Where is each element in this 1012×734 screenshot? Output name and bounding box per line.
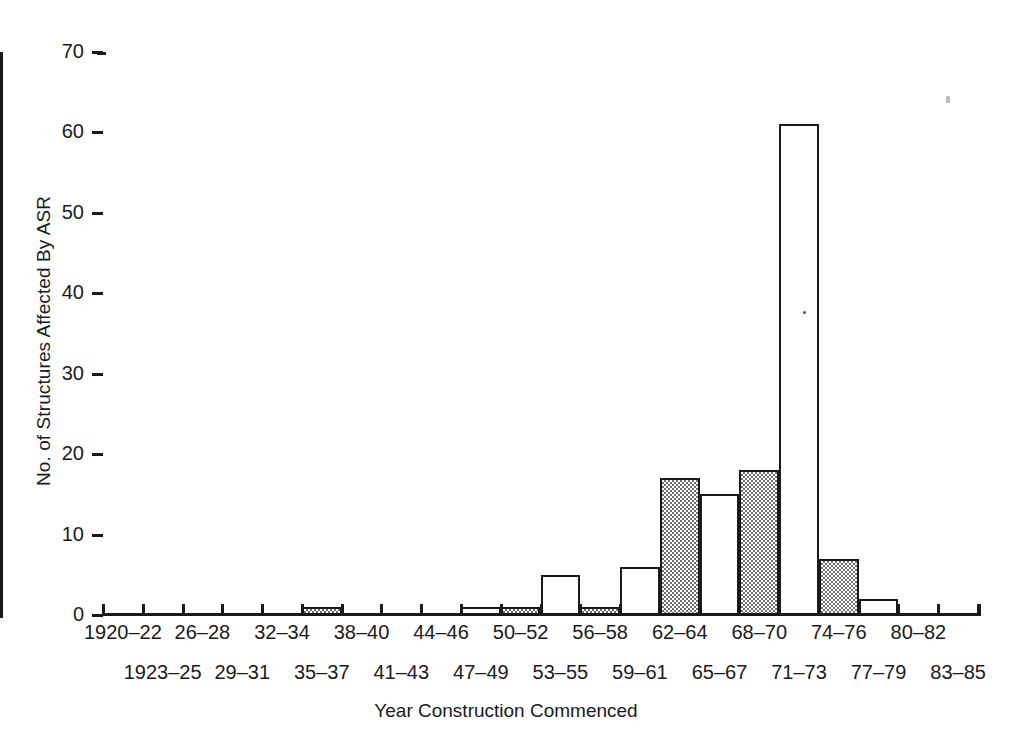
y-tick-40: [92, 292, 103, 295]
y-tick-label-50: 50: [22, 202, 84, 222]
bar-50-52: [501, 607, 541, 615]
chart-figure: No. of Structures Affected By ASR 010203…: [0, 0, 1012, 734]
y-tick-50: [92, 212, 103, 215]
bar-47-49: [461, 607, 501, 615]
y-tick-20: [92, 453, 103, 456]
y-tick-label-40: 40: [22, 282, 84, 302]
bar-53-55: [541, 575, 581, 615]
bar-59-61: [620, 567, 660, 615]
x-tick-label-80-82: 80–82: [864, 622, 972, 642]
bar-56-58: [580, 607, 620, 615]
print-mark-artifact: [946, 96, 950, 103]
bar-68-70: [739, 470, 779, 615]
bar-62-64: [660, 478, 700, 615]
y-tick-label-60: 60: [22, 121, 84, 141]
bar-35-37: [302, 607, 342, 615]
bar-71-73: [779, 124, 819, 615]
y-tick-label-10: 10: [22, 524, 84, 544]
y-tick-0: [92, 614, 103, 617]
x-axis-title: Year Construction Commenced: [0, 700, 1012, 722]
y-tick-30: [92, 373, 103, 376]
print-speck-artifact: [803, 311, 806, 314]
y-axis-line: [0, 52, 3, 618]
y-tick-label-30: 30: [22, 363, 84, 383]
bar-65-67: [700, 494, 740, 615]
y-tick-label-70: 70: [22, 41, 84, 61]
y-tick-label-20: 20: [22, 443, 84, 463]
x-tick-label-83-85: 83–85: [904, 662, 1012, 682]
y-tick-70: [92, 51, 103, 54]
bar-77-79: [859, 599, 899, 615]
bar-series: [103, 52, 981, 615]
y-tick-10: [92, 534, 103, 537]
y-tick-60: [92, 131, 103, 134]
y-tick-label-0: 0: [22, 604, 84, 624]
bar-74-76: [819, 559, 859, 615]
